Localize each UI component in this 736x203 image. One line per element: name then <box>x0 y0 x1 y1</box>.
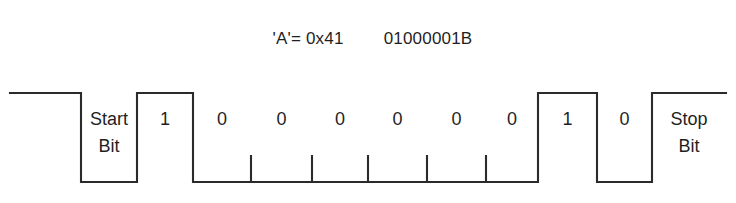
bit-boundary-tick-group <box>251 155 486 182</box>
waveform-signal-svg <box>0 0 736 203</box>
uart-waveform-diagram: Start Bit100000010Stop Bit <box>0 0 736 203</box>
